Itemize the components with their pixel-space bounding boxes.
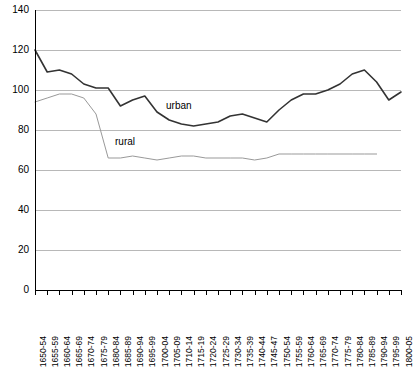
x-tick-label: 1655-59 <box>51 336 60 367</box>
x-tick-label: 1740-44 <box>258 336 267 367</box>
x-tick <box>364 291 365 295</box>
x-tick-label: 1700-04 <box>161 336 170 367</box>
x-tick <box>242 291 243 295</box>
x-tick-label: 1650-54 <box>39 336 48 367</box>
series-line-urban <box>35 50 401 126</box>
x-tick <box>401 291 402 295</box>
y-tick-label: 80 <box>18 125 29 135</box>
series-line-rural <box>35 94 377 160</box>
x-tick-label: 1680-84 <box>112 336 121 367</box>
x-tick-label: 1665-69 <box>75 336 84 367</box>
x-tick-label: 1710-14 <box>185 336 194 367</box>
x-tick-label: 1760-64 <box>307 336 316 367</box>
x-tick <box>316 291 317 295</box>
x-tick <box>133 291 134 295</box>
x-tick-label: 1755-59 <box>295 336 304 367</box>
x-tick <box>352 291 353 295</box>
x-tick-label: 1720-24 <box>209 336 218 367</box>
x-tick <box>340 291 341 295</box>
x-tick <box>279 291 280 295</box>
x-tick-label: 1780-84 <box>356 336 365 367</box>
x-tick-label: 1765-69 <box>319 336 328 367</box>
y-tick-label: 120 <box>12 45 29 55</box>
x-tick <box>303 291 304 295</box>
y-axis: 140120100806040200 <box>0 0 32 300</box>
x-tick <box>59 291 60 295</box>
y-tick-label: 140 <box>12 5 29 15</box>
y-tick-label: 100 <box>12 85 29 95</box>
y-tick-label: 40 <box>18 205 29 215</box>
x-tick <box>206 291 207 295</box>
x-axis-labels: 1650-541655-591660-641665-691670-741675-… <box>35 296 402 337</box>
x-tick-label: 1685-89 <box>124 336 133 367</box>
x-tick <box>35 291 36 295</box>
y-tick-label: 20 <box>18 245 29 255</box>
x-tick <box>169 291 170 295</box>
x-tick-label: 1725-29 <box>222 336 231 367</box>
series-label-urban: urban <box>166 100 192 111</box>
x-tick-label: 1750-54 <box>283 336 292 367</box>
x-tick-label: 1735-39 <box>246 336 255 367</box>
x-tick <box>291 291 292 295</box>
x-tick-label: 1715-19 <box>197 336 206 367</box>
x-tick <box>157 291 158 295</box>
x-tick <box>267 291 268 295</box>
y-tick-label: 0 <box>23 285 29 295</box>
x-tick <box>84 291 85 295</box>
x-tick-label: 1745-47 <box>270 336 279 367</box>
x-tick-label: 1695-99 <box>148 336 157 367</box>
x-tick-label: 1675-79 <box>100 336 109 367</box>
x-tick <box>96 291 97 295</box>
x-tick <box>230 291 231 295</box>
x-tick-label: 1785-89 <box>368 336 377 367</box>
x-tick <box>72 291 73 295</box>
x-tick-label: 1705-09 <box>173 336 182 367</box>
x-tick <box>377 291 378 295</box>
x-tick-label: 1790-94 <box>380 336 389 367</box>
x-tick <box>47 291 48 295</box>
x-tick-label: 1775-79 <box>344 336 353 367</box>
y-axis-line <box>35 10 36 291</box>
y-tick-label: 60 <box>18 165 29 175</box>
plot-area <box>35 10 401 290</box>
x-tick <box>145 291 146 295</box>
x-tick-label: 1670-74 <box>87 336 96 367</box>
x-tick <box>108 291 109 295</box>
x-tick <box>194 291 195 295</box>
x-tick <box>389 291 390 295</box>
x-tick-label: 1795-99 <box>392 336 401 367</box>
x-tick <box>120 291 121 295</box>
x-tick <box>181 291 182 295</box>
x-tick <box>255 291 256 295</box>
x-tick-label: 1800-05 <box>405 336 414 367</box>
x-tick <box>218 291 219 295</box>
x-tick-label: 1770-74 <box>331 336 340 367</box>
series-label-rural: rural <box>115 136 135 147</box>
x-tick <box>328 291 329 295</box>
x-tick-label: 1690-94 <box>136 336 145 367</box>
x-tick-label: 1730-34 <box>234 336 243 367</box>
series-paths <box>35 10 401 290</box>
x-tick-label: 1660-64 <box>63 336 72 367</box>
